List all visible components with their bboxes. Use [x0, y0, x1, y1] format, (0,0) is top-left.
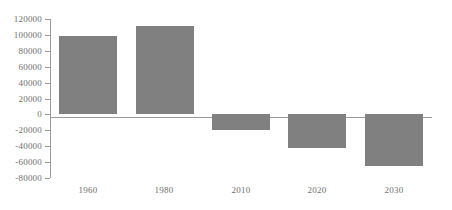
y-axis-tick-label: 20000	[0, 94, 42, 104]
y-axis-tick-label-wrap: -80000	[0, 173, 42, 183]
plot-area	[50, 19, 432, 178]
y-axis-tick-label-wrap: -40000	[0, 141, 42, 151]
y-axis-tick-label: 80000	[0, 46, 42, 56]
bar-chart: 120000100000800006000040000200000-20000-…	[0, 0, 452, 210]
y-axis-tick-label: -80000	[0, 173, 42, 183]
y-axis-tick-label-wrap: -60000	[0, 157, 42, 167]
x-axis-tick-label-1960: 1960	[50, 185, 126, 195]
bar-2030	[365, 114, 423, 166]
y-axis-tick-label: -40000	[0, 141, 42, 151]
y-axis-tick-label-wrap: 40000	[0, 78, 42, 88]
x-axis-tick-label-2010: 2010	[203, 185, 279, 195]
bar-1980	[136, 26, 194, 114]
y-axis-tick-label: 40000	[0, 78, 42, 88]
y-axis-tick-label-wrap: 20000	[0, 94, 42, 104]
y-axis-tick-label-wrap: 60000	[0, 62, 42, 72]
y-axis-tick-label: 0	[0, 109, 42, 119]
y-axis-tick-label: -60000	[0, 157, 42, 167]
x-axis-tick-label-2030: 2030	[356, 185, 432, 195]
x-axis-tick-label-1980: 1980	[126, 185, 202, 195]
y-axis-tick-label: 120000	[0, 14, 42, 24]
x-axis-tick-label-2020: 2020	[279, 185, 355, 195]
y-axis-tick-label-wrap: -20000	[0, 125, 42, 135]
y-axis-tick-mark	[45, 178, 50, 179]
bar-2020	[288, 114, 346, 148]
y-axis-tick-label-wrap: 120000	[0, 14, 42, 24]
y-axis-tick-label-wrap: 80000	[0, 46, 42, 56]
y-axis-tick-label-wrap: 100000	[0, 30, 42, 40]
y-axis-tick-label: -20000	[0, 125, 42, 135]
bar-1960	[59, 36, 117, 114]
y-axis-tick-label-wrap: 0	[0, 109, 42, 119]
y-axis-tick-label: 100000	[0, 30, 42, 40]
y-axis-tick-label: 60000	[0, 62, 42, 72]
bar-2010	[212, 114, 270, 130]
